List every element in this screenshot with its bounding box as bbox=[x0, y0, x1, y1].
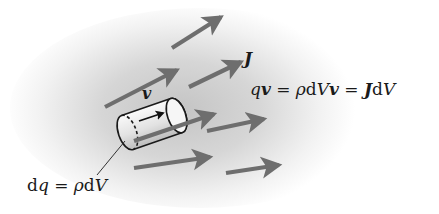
dq-d: d bbox=[84, 175, 95, 195]
velocity-label: v bbox=[142, 86, 151, 102]
dq-V: V bbox=[95, 175, 107, 195]
current-density-label: J bbox=[244, 50, 252, 67]
dq-equals: = bbox=[49, 175, 74, 195]
dq-d: d bbox=[27, 175, 38, 195]
eq-equals: = bbox=[271, 79, 296, 99]
dq-q: q bbox=[38, 175, 49, 195]
current-equation: qv = ρdVv = JdV bbox=[250, 81, 395, 98]
eq-V: V bbox=[383, 79, 395, 99]
eq-rho: ρ bbox=[296, 79, 306, 99]
charge-element-equation: dq = ρdV bbox=[27, 177, 107, 194]
eq-d: d bbox=[372, 79, 383, 99]
eq-v: v bbox=[329, 79, 339, 99]
diagram-canvas: J v qv = ρdVv = JdV dq = ρdV bbox=[0, 0, 439, 214]
eq-J: J bbox=[364, 79, 372, 99]
v-symbol: v bbox=[142, 84, 151, 103]
eq-q: q bbox=[250, 79, 261, 99]
eq-d: d bbox=[306, 79, 317, 99]
eq-V: V bbox=[317, 79, 329, 99]
eq-equals: = bbox=[339, 79, 364, 99]
eq-v: v bbox=[261, 79, 271, 99]
dq-rho: ρ bbox=[74, 175, 84, 195]
J-symbol: J bbox=[244, 48, 252, 68]
